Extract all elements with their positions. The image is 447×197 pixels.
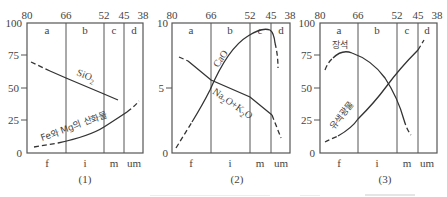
feldspar-curve-dashed — [325, 58, 333, 70]
y-tick: 25 — [8, 114, 20, 126]
top-tick: 52 — [392, 9, 403, 21]
y-tick: 50 — [8, 82, 20, 94]
footer-fragment — [150, 194, 415, 196]
figure: 80 66 52 45 38 0 25 50 75 100 a b c d Si… — [0, 0, 447, 197]
x-category: m — [110, 157, 119, 169]
panel-1: 80 66 52 45 38 0 25 50 75 100 a b c d Si… — [6, 9, 150, 186]
region-label: b — [374, 24, 380, 36]
top-tick: 80 — [22, 9, 34, 21]
panel-caption: (2) — [231, 173, 244, 186]
x-category: i — [375, 157, 378, 169]
top-tick: 38 — [285, 9, 297, 21]
cao-curve-dashed-end — [275, 43, 278, 68]
plot-frame — [172, 23, 290, 153]
top-tick: 52 — [245, 9, 256, 21]
y-tick: 50 — [301, 82, 313, 94]
region-label: c — [405, 24, 410, 36]
x-category: um — [274, 157, 289, 169]
top-tick: 38 — [432, 9, 444, 21]
panel-3: 80 66 52 45 38 0 25 50 75 100 a b c d 장석… — [299, 9, 444, 186]
top-tick: 45 — [119, 9, 131, 21]
region-label: a — [189, 24, 194, 36]
sio2-line-dashed — [31, 62, 50, 71]
mafic-curve — [338, 50, 418, 136]
x-category: m — [403, 157, 412, 169]
x-category: f — [337, 157, 341, 169]
x-category: um — [127, 157, 142, 169]
top-tick: 66 — [353, 9, 365, 21]
panel-2: 80 66 52 45 38 0 5 10 a b c d CaO Na2O+K… — [157, 9, 296, 186]
x-category: f — [45, 157, 49, 169]
alkali-line-dashed-end — [272, 115, 281, 138]
region-label: d — [131, 24, 137, 36]
fe-mg-curve-dashed — [34, 143, 58, 147]
alkali-line-dashed — [179, 57, 188, 61]
region-label: b — [82, 24, 88, 36]
top-tick: 66 — [206, 9, 218, 21]
fe-mg-label: Fe와 Mg의 산화물 — [39, 109, 108, 143]
top-tick: 38 — [138, 9, 150, 21]
panel-caption: (3) — [379, 173, 392, 186]
region-label: a — [337, 24, 342, 36]
x-category: i — [83, 157, 86, 169]
top-tick: 80 — [315, 9, 327, 21]
region-label: b — [227, 24, 233, 36]
top-tick: 80 — [167, 9, 179, 21]
y-tick: 10 — [157, 17, 169, 29]
y-tick: 0 — [310, 147, 316, 159]
panel-caption: (1) — [79, 173, 92, 186]
feldspar-label: 장석 — [332, 40, 348, 50]
y-tick: 0 — [17, 147, 23, 159]
x-category: i — [228, 157, 231, 169]
y-tick: 75 — [301, 49, 313, 61]
top-tick: 45 — [413, 9, 425, 21]
x-category: m — [256, 157, 265, 169]
region-label: a — [45, 24, 50, 36]
region-label: d — [424, 24, 430, 36]
x-category: um — [420, 157, 435, 169]
x-category: f — [189, 157, 193, 169]
alkali-label: Na2O+K2O — [209, 86, 255, 124]
y-tick: 25 — [301, 114, 313, 126]
cao-curve-dashed — [176, 122, 192, 148]
sio2-label: SiO2 — [74, 67, 97, 87]
y-tick: 100 — [6, 17, 23, 29]
mafic-curve-dashed-end — [418, 40, 424, 50]
y-tick: 5 — [159, 82, 165, 94]
region-label: d — [278, 24, 284, 36]
top-tick: 52 — [99, 9, 110, 21]
top-tick: 45 — [266, 9, 278, 21]
y-tick: 100 — [299, 17, 316, 29]
mafic-curve-dashed — [325, 136, 338, 142]
top-tick: 66 — [61, 9, 73, 21]
y-tick: 75 — [8, 49, 20, 61]
fe-mg-curve-dashed-end — [127, 101, 139, 112]
feldspar-curve-dashed-end — [404, 120, 411, 135]
region-label: c — [112, 24, 117, 36]
y-tick: 0 — [163, 147, 169, 159]
